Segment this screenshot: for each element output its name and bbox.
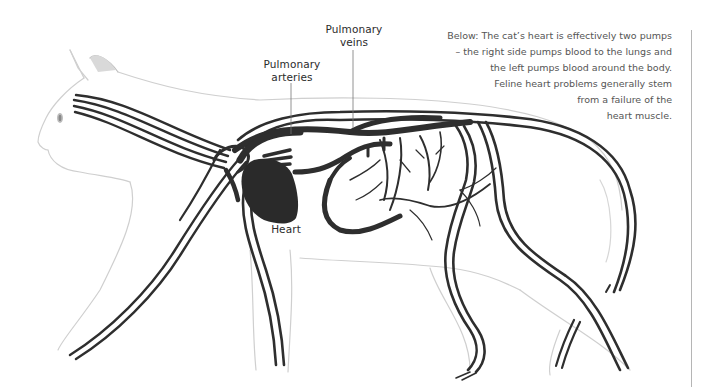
label-pulmonary-arteries: Pulmonary arteries	[260, 58, 324, 84]
caption-line: Below: The cat’s heart is effectively tw…	[422, 28, 672, 44]
caption-line: the left pumps blood around the body.	[422, 60, 672, 76]
cat-eye	[57, 113, 63, 123]
figure-caption: Below: The cat’s heart is effectively tw…	[422, 28, 672, 124]
page-margin-rule	[691, 30, 692, 387]
caption-line: heart muscle.	[422, 108, 672, 124]
caption-line: Feline heart problems generally stem	[422, 76, 672, 92]
label-pulmonary-arteries-line2: arteries	[260, 71, 324, 84]
cat-ear-shading	[90, 55, 116, 72]
heart-shape	[242, 159, 299, 224]
label-pulmonary-veins-line2: veins	[322, 36, 386, 49]
label-heart: Heart	[266, 223, 306, 236]
blood-vessels	[70, 95, 635, 380]
caption-line: from a failure of the	[422, 92, 672, 108]
cat-circulation-figure: Pulmonary veins Pulmonary arteries Heart…	[0, 0, 709, 387]
caption-line: – the right side pumps blood to the lung…	[422, 44, 672, 60]
label-pulmonary-veins-line1: Pulmonary	[322, 23, 386, 36]
label-pulmonary-arteries-line1: Pulmonary	[260, 58, 324, 71]
label-pulmonary-veins: Pulmonary veins	[322, 23, 386, 49]
